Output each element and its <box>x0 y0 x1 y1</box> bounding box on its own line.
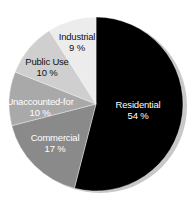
slice-label-value: 10 % <box>37 67 59 78</box>
slice-label-value: 10 % <box>30 107 52 118</box>
slice-label-name: Residential <box>116 99 161 110</box>
slice-label-value: 17 % <box>45 143 67 154</box>
slice-label-name: Public Use <box>25 56 68 67</box>
pie-chart: Residential54 %Commercial17 %Unaccounted… <box>0 0 193 206</box>
slice-label-value: 9 % <box>69 42 86 53</box>
slice-label-name: Industrial <box>59 31 96 42</box>
slice-label-name: Unaccounted-for <box>6 96 73 107</box>
pie-chart-canvas: Residential54 %Commercial17 %Unaccounted… <box>0 0 193 206</box>
slice-label-value: 54 % <box>128 110 150 121</box>
slice-label-name: Commercial <box>31 132 80 143</box>
